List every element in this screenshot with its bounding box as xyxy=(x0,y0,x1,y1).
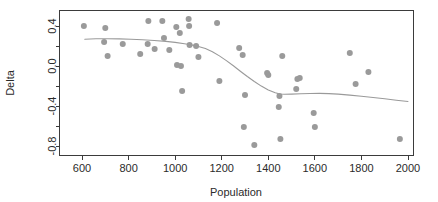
loess-smooth-line xyxy=(85,39,408,102)
data-point xyxy=(397,136,403,142)
data-point xyxy=(279,53,285,59)
y-tick-label: -0.4 xyxy=(46,97,58,116)
data-point xyxy=(265,72,271,78)
data-point xyxy=(242,92,248,98)
data-point xyxy=(179,88,185,94)
data-point xyxy=(347,50,353,56)
data-point xyxy=(120,41,126,47)
x-tick-label: 1200 xyxy=(209,162,233,174)
data-point xyxy=(195,54,201,60)
x-tick-label: 1400 xyxy=(256,162,280,174)
data-point xyxy=(145,41,151,47)
data-point xyxy=(297,75,303,81)
data-point xyxy=(81,23,87,29)
data-point xyxy=(193,43,199,49)
y-tick-label: 0.4 xyxy=(46,18,58,33)
y-axis-title: Delta xyxy=(4,69,16,96)
data-point xyxy=(161,35,167,41)
data-point xyxy=(173,24,179,30)
data-point xyxy=(177,30,183,36)
x-tick-label: 1600 xyxy=(303,162,327,174)
x-tick-label: 1000 xyxy=(163,162,187,174)
data-point xyxy=(186,16,192,22)
trend-line xyxy=(85,39,408,102)
data-point xyxy=(236,45,242,51)
data-point xyxy=(214,20,220,26)
data-point xyxy=(159,18,165,24)
y-axis-ticks xyxy=(56,26,60,146)
data-point xyxy=(187,42,193,48)
y-tick-label: -0.8 xyxy=(46,137,58,156)
data-point xyxy=(277,136,283,142)
data-point xyxy=(240,52,246,58)
x-axis-tick-labels: 600800100012001400160018002000 xyxy=(73,162,420,174)
data-point xyxy=(251,142,257,148)
x-tick-label: 1800 xyxy=(349,162,373,174)
data-point xyxy=(102,25,108,31)
data-point xyxy=(276,93,282,99)
data-point xyxy=(312,124,318,130)
plot-canvas: 600800100012001400160018002000 0.40.0-0.… xyxy=(0,0,438,202)
y-tick-label: 0.0 xyxy=(46,58,58,73)
data-point xyxy=(137,51,143,57)
x-tick-label: 800 xyxy=(119,162,137,174)
scatter-plot-figure: 600800100012001400160018002000 0.40.0-0.… xyxy=(0,0,438,202)
data-point xyxy=(365,69,371,75)
x-tick-label: 600 xyxy=(73,162,91,174)
data-point xyxy=(276,104,282,110)
data-point xyxy=(311,110,317,116)
data-point xyxy=(166,47,172,53)
data-point xyxy=(145,18,151,24)
data-point xyxy=(178,63,184,69)
data-point xyxy=(186,23,192,29)
data-point xyxy=(152,46,158,52)
data-point xyxy=(216,78,222,84)
data-point xyxy=(293,86,299,92)
data-point xyxy=(101,39,107,45)
data-point xyxy=(353,81,359,87)
y-axis-tick-labels: 0.40.0-0.4-0.8 xyxy=(46,18,58,155)
plot-frame xyxy=(60,11,414,156)
x-axis-title: Population xyxy=(210,186,262,198)
data-points xyxy=(81,16,403,148)
data-point xyxy=(241,124,247,130)
x-axis-ticks xyxy=(82,156,408,160)
x-tick-label: 2000 xyxy=(396,162,420,174)
data-point xyxy=(105,53,111,59)
